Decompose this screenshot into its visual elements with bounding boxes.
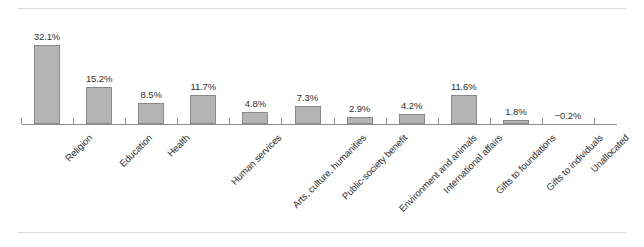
bar bbox=[138, 103, 164, 124]
x-axis-tick bbox=[229, 118, 230, 124]
x-axis-tick bbox=[490, 118, 491, 124]
bar-value-label: 32.1% bbox=[17, 31, 77, 42]
x-axis-category-label: Health bbox=[165, 132, 192, 159]
plot-area: 32.1%15.2%8.5%11.7%4.8%7.3%2.9%4.2%11.6%… bbox=[0, 0, 644, 247]
x-axis-tick bbox=[21, 118, 22, 124]
x-axis-tick bbox=[386, 118, 387, 124]
x-axis-tick bbox=[177, 118, 178, 124]
bar-value-label: 8.5% bbox=[121, 89, 181, 100]
x-axis-tick bbox=[281, 118, 282, 124]
bar-value-label: 4.8% bbox=[225, 98, 285, 109]
bar-value-label: 2.9% bbox=[330, 103, 390, 114]
x-axis-category-label: Human services bbox=[229, 132, 284, 187]
bar-value-label: 15.2% bbox=[69, 73, 129, 84]
x-axis-tick bbox=[125, 118, 126, 124]
x-axis-category-label: Arts, culture, humanities bbox=[291, 132, 369, 210]
bar bbox=[347, 117, 373, 124]
bar-value-label: 11.6% bbox=[434, 81, 494, 92]
x-axis-tick bbox=[73, 118, 74, 124]
bar bbox=[190, 95, 216, 124]
bar-value-label: 11.7% bbox=[173, 81, 233, 92]
bar-value-label: 7.3% bbox=[278, 92, 338, 103]
bar bbox=[242, 112, 268, 124]
bar-chart-figure: 32.1%15.2%8.5%11.7%4.8%7.3%2.9%4.2%11.6%… bbox=[0, 0, 644, 247]
bar-value-label: −0.2% bbox=[538, 110, 598, 121]
bar bbox=[86, 87, 112, 124]
x-axis-category-label: Education bbox=[117, 132, 154, 169]
bar-value-label: 4.2% bbox=[382, 100, 442, 111]
x-axis-category-label: Religion bbox=[63, 132, 94, 163]
x-axis-line bbox=[22, 124, 617, 125]
bar bbox=[451, 95, 477, 124]
x-axis-tick bbox=[334, 118, 335, 124]
bar bbox=[34, 45, 60, 124]
bar bbox=[295, 106, 321, 124]
x-axis-tick bbox=[438, 118, 439, 124]
bar bbox=[503, 120, 529, 124]
bar-value-label: 1.8% bbox=[486, 106, 546, 117]
bar bbox=[399, 114, 425, 124]
